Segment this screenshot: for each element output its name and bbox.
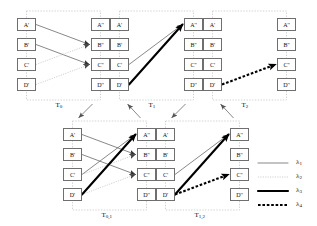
- node-T2-right-3: D'': [277, 78, 296, 91]
- connector-T1-to-T12: [172, 104, 186, 118]
- group-frame-T0: [27, 11, 101, 100]
- node-T01-left-1: B': [63, 148, 82, 161]
- node-T1-left-0: A': [110, 18, 129, 31]
- node-T1-right-2: C'': [184, 58, 203, 71]
- node-T12-left-3: D': [156, 188, 175, 201]
- legend-label-subscript: 1: [299, 161, 302, 166]
- figure-canvas: A'B'C'D'A''B''C''D''A'B'C'D'A''B''C''D''…: [0, 0, 317, 226]
- legend-label-lambda3: λ3: [296, 186, 302, 194]
- node-T01-right-1: B'': [137, 148, 156, 161]
- group-label-T2: T2: [242, 101, 249, 109]
- node-T2-right-2: C'': [277, 58, 296, 71]
- node-T12-left-0: A': [156, 128, 175, 141]
- edge-T01-lambda3-5: [82, 135, 136, 195]
- legend-label-subscript: 2: [299, 175, 302, 180]
- node-T0-left-1: B': [17, 38, 36, 51]
- node-T12-left-1: B': [156, 148, 175, 161]
- node-T2-left-3: D': [203, 78, 222, 91]
- node-T1-right-0: A'': [184, 18, 203, 31]
- edge-T2-lambda4-0: [222, 65, 276, 85]
- node-T01-left-0: A': [63, 128, 82, 141]
- node-T12-right-1: B'': [230, 148, 249, 161]
- group-label-subscript: 2: [246, 104, 249, 109]
- node-T1-left-2: C': [110, 58, 129, 71]
- group-label-T0: T0: [56, 101, 63, 109]
- node-T2-left-2: C': [203, 58, 222, 71]
- connector-T01-to-T1: [128, 104, 141, 118]
- node-T01-right-0: A'': [137, 128, 156, 141]
- edge-T1-lambda3-1: [129, 25, 183, 85]
- node-T12-right-3: D'': [230, 188, 249, 201]
- legend-label-lambda4: λ4: [296, 200, 302, 208]
- legend-label-subscript: 4: [299, 203, 302, 208]
- node-T1-left-1: B': [110, 38, 129, 51]
- node-T0-right-0: A'': [91, 18, 110, 31]
- node-T0-right-3: D'': [91, 78, 110, 91]
- node-T01-right-2: C'': [137, 168, 156, 181]
- node-T12-right-2: C'': [230, 168, 249, 181]
- connector-T12-to-T2: [221, 104, 234, 118]
- edge-T1-lambda1-0: [129, 25, 183, 65]
- edge-T0-lambda2-3: [36, 65, 90, 85]
- node-T01-left-2: C': [63, 168, 82, 181]
- node-T1-right-3: D'': [184, 78, 203, 91]
- edge-T0-lambda1-0: [36, 25, 90, 45]
- node-T2-left-0: A': [203, 18, 222, 31]
- group-label-subscript: 1,2: [199, 214, 205, 219]
- node-T0-left-0: A': [17, 18, 36, 31]
- connector-T0-to-T01: [79, 104, 93, 118]
- node-T2-right-0: A'': [277, 18, 296, 31]
- node-T1-right-1: B'': [184, 38, 203, 51]
- connector-arrows: [79, 104, 234, 118]
- node-T0-right-1: B'': [91, 38, 110, 51]
- group-label-T01: T0,1: [102, 211, 113, 219]
- group-label-T1: T1: [149, 101, 156, 109]
- node-T12-right-0: A'': [230, 128, 249, 141]
- node-T2-left-1: B': [203, 38, 222, 51]
- edge-T01-lambda1-2: [82, 135, 136, 175]
- node-T12-left-2: C': [156, 168, 175, 181]
- node-T01-right-3: D'': [137, 188, 156, 201]
- node-T0-left-2: C': [17, 58, 36, 71]
- group-label-subscript: 0,1: [106, 214, 112, 219]
- group-frame-T2: [213, 11, 287, 100]
- legend-label-lambda2: λ2: [296, 172, 302, 180]
- node-T0-left-3: D': [17, 78, 36, 91]
- node-T2-right-1: B'': [277, 38, 296, 51]
- legend-line-samples: [258, 163, 288, 205]
- node-T01-left-3: D': [63, 188, 82, 201]
- legend-label-lambda1: λ1: [296, 158, 302, 166]
- node-T1-left-3: D': [110, 78, 129, 91]
- group-label-T12: T1,2: [195, 211, 206, 219]
- legend-label-subscript: 3: [299, 189, 302, 194]
- edge-T12-lambda1-0: [175, 135, 229, 175]
- group-label-subscript: 1: [153, 104, 156, 109]
- group-label-subscript: 0: [60, 104, 63, 109]
- node-T0-right-2: C'': [91, 58, 110, 71]
